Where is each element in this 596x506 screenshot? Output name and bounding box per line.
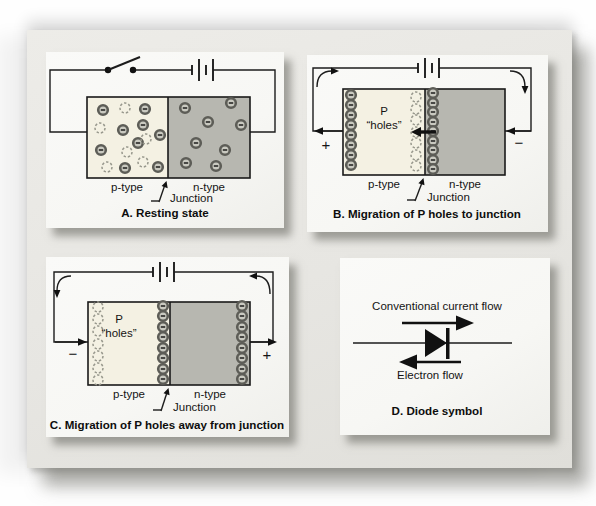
battery-icon bbox=[153, 262, 174, 282]
current-direction-arrow-top-right bbox=[249, 273, 270, 294]
junction-label: Junction bbox=[173, 401, 216, 413]
panel-c-reverse-bias: − + P “holes” p-type n-type bbox=[46, 257, 289, 437]
page-background: p-type n-type Junction A. Resting state bbox=[27, 30, 572, 468]
junction-pointer-arrow bbox=[407, 178, 425, 201]
junction-label: Junction bbox=[170, 192, 213, 204]
junction-label: Junction bbox=[427, 191, 470, 203]
p-type-label: p-type bbox=[113, 388, 145, 400]
semiconductor-block-c bbox=[88, 302, 250, 385]
polarity-plus: + bbox=[322, 136, 331, 153]
panel-a-caption: A. Resting state bbox=[121, 206, 209, 219]
junction-pointer-arrow bbox=[153, 388, 170, 411]
panel-b-forward-bias: + − P “holes” p-type n-type bbox=[307, 55, 548, 232]
battery-icon bbox=[418, 58, 439, 78]
panel-d-diode-symbol: Conventional current flow Electron flow … bbox=[340, 258, 550, 435]
n-type-label: n-type bbox=[194, 388, 226, 400]
panel-c-caption: C. Migration of P holes away from juncti… bbox=[50, 418, 284, 431]
panel-b-caption: B. Migration of P holes to junction bbox=[333, 207, 521, 220]
battery-icon bbox=[192, 59, 213, 81]
polarity-plus: + bbox=[263, 346, 272, 363]
panel-a-resting-state: p-type n-type Junction A. Resting state bbox=[46, 52, 284, 228]
current-direction-arrow-top-left bbox=[54, 276, 71, 298]
panel-d-caption: D. Diode symbol bbox=[392, 404, 483, 417]
panel-b-figure: + − P “holes” p-type n-type bbox=[307, 55, 548, 232]
current-arrow-left bbox=[314, 127, 343, 134]
diode-symbol-icon bbox=[353, 328, 512, 359]
current-direction-arrow-top-right bbox=[510, 71, 528, 94]
p-holes-label-line2: “holes” bbox=[101, 327, 136, 339]
p-holes-label-line1: P bbox=[115, 313, 123, 325]
panel-c-figure: − + P “holes” p-type n-type bbox=[46, 257, 289, 437]
polarity-minus: − bbox=[515, 134, 524, 151]
polarity-minus: − bbox=[69, 345, 78, 362]
p-type-label: p-type bbox=[368, 178, 400, 190]
panel-d-figure: Conventional current flow Electron flow … bbox=[340, 258, 550, 435]
p-holes-label-line2: “holes” bbox=[366, 119, 401, 131]
panel-a-figure: p-type n-type Junction A. Resting state bbox=[46, 52, 284, 228]
switch-icon bbox=[105, 57, 140, 73]
p-holes-label-line1: P bbox=[380, 105, 388, 117]
conventional-current-label: Conventional current flow bbox=[372, 300, 502, 312]
book-page-photo: p-type n-type Junction A. Resting state bbox=[0, 0, 596, 506]
left-edge-electron-column bbox=[346, 90, 356, 170]
electron-flow-label: Electron flow bbox=[397, 369, 464, 381]
p-type-label: p-type bbox=[111, 181, 143, 193]
junction-pointer-arrow bbox=[151, 181, 168, 202]
conventional-current-arrow bbox=[402, 316, 474, 331]
n-type-label: n-type bbox=[449, 178, 481, 190]
current-direction-arrow-top-left bbox=[317, 68, 339, 87]
semiconductor-block-a bbox=[87, 97, 250, 178]
electron-flow-arrow bbox=[399, 355, 461, 370]
